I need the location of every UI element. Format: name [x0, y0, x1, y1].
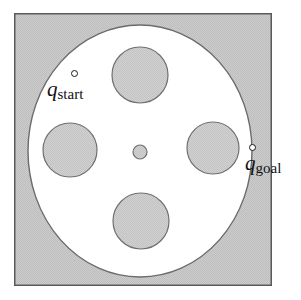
start-subscript: start	[58, 86, 84, 102]
start-symbol: q	[47, 77, 58, 101]
goal-symbol: q	[245, 151, 256, 175]
obstacle-bottom	[113, 193, 169, 249]
goal-point-marker	[249, 144, 256, 151]
start-label: qstart	[47, 79, 83, 100]
obstacle-center	[133, 145, 147, 159]
obstacle-top	[112, 47, 168, 103]
goal-label: qgoal	[245, 153, 281, 174]
goal-subscript: goal	[256, 160, 282, 176]
start-point-marker	[71, 70, 78, 77]
obstacle-left	[43, 123, 97, 177]
figure-canvas	[0, 0, 301, 300]
configuration-space-figure	[0, 0, 301, 300]
obstacle-right	[187, 122, 239, 174]
